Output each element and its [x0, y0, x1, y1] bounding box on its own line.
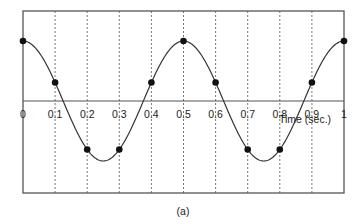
x-tick-label: 0 [20, 108, 26, 120]
x-tick-label: 0.1 [48, 108, 63, 120]
x-tick-label: 0.7 [240, 108, 255, 120]
x-tick-label: 1 [341, 108, 347, 120]
sampled-cosine-chart: 00.10.20.30.40.50.60.70.80.91 Time (sec.… [0, 0, 361, 224]
sample-point [309, 79, 316, 86]
x-axis-label: Time (sec.) [279, 113, 331, 125]
sample-point [244, 146, 251, 153]
sample-point [116, 146, 123, 153]
x-tick-label: 0.6 [208, 108, 223, 120]
sample-point [341, 38, 348, 45]
x-tick-label: 0.4 [144, 108, 159, 120]
sample-point [20, 38, 27, 45]
sample-point [180, 38, 187, 45]
sample-point [277, 146, 284, 153]
x-tick-label: 0.3 [112, 108, 127, 120]
sample-point [212, 79, 219, 86]
figure-caption: (a) [177, 205, 190, 217]
sample-point [84, 146, 91, 153]
sample-point [52, 79, 59, 86]
x-tick-label: 0.2 [80, 108, 95, 120]
sample-point [148, 79, 155, 86]
x-tick-label: 0.5 [176, 108, 191, 120]
